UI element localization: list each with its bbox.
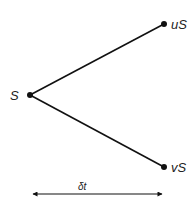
down-node-label: vS [171, 160, 187, 175]
time-step-label: δt [78, 181, 88, 192]
up-node-dot [161, 21, 167, 27]
up-node-label: uS [171, 17, 187, 32]
down-branch-line [30, 95, 164, 167]
start-node-dot [27, 92, 33, 98]
binomial-tree-diagram: S uS vS δt [0, 0, 196, 207]
up-branch-line [30, 24, 164, 95]
down-node-dot [161, 164, 167, 170]
start-node-label: S [10, 88, 19, 103]
